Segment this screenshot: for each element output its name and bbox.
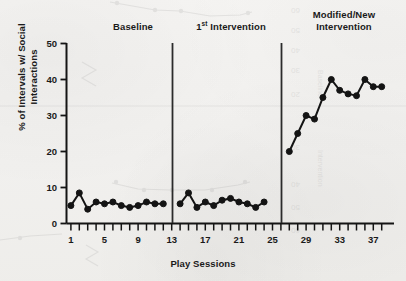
y-tick-label-10: 10 — [33, 182, 57, 193]
x-axis-ticks — [71, 224, 382, 231]
x-tick-label-1: 1 — [59, 234, 83, 245]
x-tick-label-33: 33 — [328, 234, 352, 245]
x-tick-label-17: 17 — [193, 234, 217, 245]
x-tick-label-29: 29 — [294, 234, 318, 245]
phase-title-baseline-text: Baseline — [113, 21, 153, 32]
x-tick-label-9: 9 — [126, 234, 150, 245]
x-tick-label-13: 13 — [160, 234, 184, 245]
phase-title-modified-intervention: Modified/New Intervention — [290, 9, 398, 32]
x-tick-label-5: 5 — [93, 234, 117, 245]
y-axis-title: % of Intervals w/ Social Interactions — [16, 0, 46, 162]
y-axis-title-line1: % of Intervals w/ Social — [16, 0, 28, 162]
x-tick-label-25: 25 — [261, 234, 285, 245]
phase-title-baseline: Baseline — [88, 21, 178, 33]
series-baseline — [68, 190, 166, 212]
phase-title-first-post: Intervention — [208, 21, 266, 32]
x-tick-label-37: 37 — [361, 234, 385, 245]
y-axis-title-line2: Interactions — [28, 0, 40, 162]
phase-title-modified-line2: Intervention — [290, 21, 398, 33]
x-tick-label-21: 21 — [227, 234, 251, 245]
chart-figure: 60 50 40 30 20 30 40 50 60 Baseline Inte… — [0, 0, 406, 281]
y-tick-label-0: 0 — [33, 218, 57, 229]
x-axis-title: Play Sessions — [0, 258, 406, 269]
series-first-intervention — [177, 190, 267, 211]
phase-title-first-intervention: 1st Intervention — [176, 21, 286, 33]
series-modified-intervention — [286, 77, 384, 155]
phase-title-modified-line1: Modified/New — [290, 9, 398, 21]
